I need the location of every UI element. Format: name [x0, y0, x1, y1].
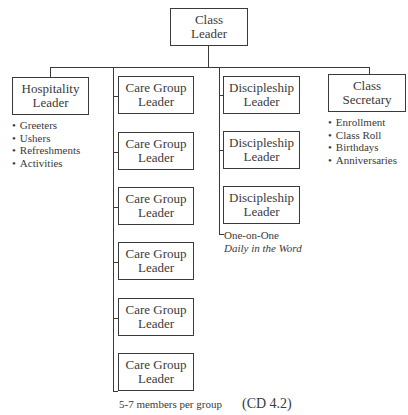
care-tick — [113, 391, 118, 392]
box-line2: Leader — [138, 372, 174, 386]
box-line1: Discipleship — [229, 81, 294, 95]
care-group-leader-box: Care Group Leader — [118, 242, 194, 280]
list-item: Activities — [12, 157, 80, 170]
hospitality-duties: Greeters Ushers Refreshments Activities — [12, 119, 80, 169]
discipleship-leader-box: Discipleship Leader — [223, 131, 300, 169]
list-item: Birthdays — [328, 141, 397, 154]
discipleship-note-line2: Daily in the Word — [224, 242, 302, 255]
discipleship-note: One-on-One Daily in the Word — [224, 229, 302, 254]
root-connector — [208, 45, 209, 67]
class-leader-line2: Leader — [191, 27, 227, 41]
hospitality-line1: Hospitality — [22, 82, 80, 96]
care-group-leader-box: Care Group Leader — [118, 76, 194, 114]
care-group-leader-box: Care Group Leader — [118, 187, 194, 225]
discipleship-note-line1: One-on-One — [224, 229, 302, 242]
discipleship-leader-box: Discipleship Leader — [223, 76, 300, 114]
list-item: Anniversaries — [328, 154, 397, 167]
class-secretary-box: Class Secretary — [328, 74, 406, 112]
box-line1: Care Group — [125, 303, 186, 317]
hospitality-leader-box: Hospitality Leader — [12, 77, 89, 115]
box-line1: Care Group — [125, 81, 186, 95]
box-line1: Care Group — [125, 137, 186, 151]
care-group-note: 5-7 members per group — [119, 398, 222, 411]
box-line1: Discipleship — [229, 191, 294, 205]
box-line2: Leader — [138, 206, 174, 220]
class-leader-line1: Class — [195, 13, 223, 27]
box-line1: Care Group — [125, 358, 186, 372]
care-group-leader-box: Care Group Leader — [118, 132, 194, 170]
top-bar — [50, 67, 369, 68]
care-group-spine — [113, 67, 114, 392]
box-line2: Leader — [243, 205, 279, 219]
care-group-leader-box: Care Group Leader — [118, 298, 194, 336]
list-item: Ushers — [12, 132, 80, 145]
hospitality-line2: Leader — [32, 96, 68, 110]
list-item: Class Roll — [328, 129, 397, 142]
class-leader-box: Class Leader — [170, 8, 248, 46]
box-line2: Leader — [138, 261, 174, 275]
box-line2: Leader — [243, 95, 279, 109]
box-line2: Leader — [138, 95, 174, 109]
list-item: Greeters — [12, 119, 80, 132]
box-line2: Leader — [243, 150, 279, 164]
box-line1: Discipleship — [229, 136, 294, 150]
box-line2: Leader — [138, 317, 174, 331]
secretary-line1: Class — [353, 79, 381, 93]
discipleship-leader-box: Discipleship Leader — [223, 186, 300, 224]
care-group-leader-box: Care Group Leader — [118, 353, 194, 391]
box-line1: Care Group — [125, 247, 186, 261]
figure-reference: (CD 4.2) — [242, 396, 292, 412]
box-line2: Leader — [138, 151, 174, 165]
secretary-duties: Enrollment Class Roll Birthdays Annivers… — [328, 116, 397, 166]
list-item: Refreshments — [12, 144, 80, 157]
list-item: Enrollment — [328, 116, 397, 129]
secretary-line2: Secretary — [342, 93, 391, 107]
box-line1: Care Group — [125, 192, 186, 206]
